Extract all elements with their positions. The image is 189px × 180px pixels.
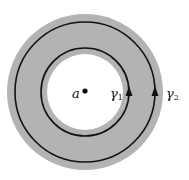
point-a-dot (82, 88, 87, 93)
point-a-label: a (72, 86, 80, 101)
gamma2-label: γ2 (166, 86, 179, 102)
annulus-diagram: a γ1 γ2 (0, 0, 189, 180)
